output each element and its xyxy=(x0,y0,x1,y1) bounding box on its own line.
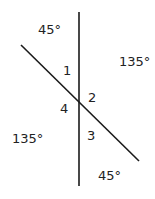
measure-top-right: 135° xyxy=(119,54,150,69)
angle-label-3: 3 xyxy=(87,128,95,143)
measure-top-left: 45° xyxy=(38,22,61,37)
angle-label-4: 4 xyxy=(60,101,68,116)
measure-bottom-right: 45° xyxy=(98,168,121,183)
angle-label-1: 1 xyxy=(63,63,71,78)
angle-diagram: 45° 135° 135° 45° 1 2 4 3 xyxy=(0,0,155,199)
measure-bottom-left: 135° xyxy=(12,131,43,146)
angle-label-2: 2 xyxy=(88,90,96,105)
